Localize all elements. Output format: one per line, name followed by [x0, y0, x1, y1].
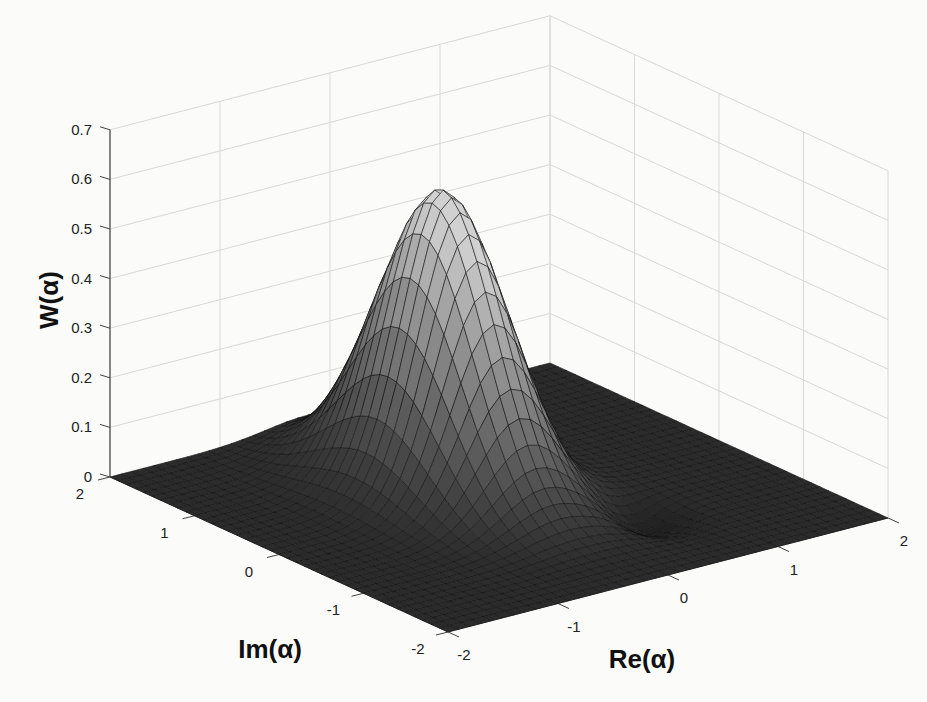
x-tick-label: 2: [900, 532, 908, 549]
wigner-surface: [110, 190, 888, 632]
x-axis-label: Re(α): [609, 644, 676, 674]
y-tick-label: -2: [411, 640, 424, 657]
x-tick-label: 0: [680, 589, 688, 606]
x-tick-label: -2: [457, 646, 470, 663]
y-tick-label: 1: [160, 524, 168, 541]
y-tick-label: 0: [245, 563, 253, 580]
x-tick-label: 1: [790, 561, 798, 578]
z-tick-label: 0: [84, 468, 92, 485]
z-tick-label: 0.3: [71, 319, 92, 336]
y-tick-label: -1: [327, 601, 340, 618]
z-tick-label: 0.1: [71, 418, 92, 435]
y-tick-label: 2: [76, 485, 84, 502]
z-tick-label: 0.5: [71, 220, 92, 237]
x-tick-label: -1: [567, 618, 580, 635]
z-tick-label: 0.2: [71, 369, 92, 386]
z-axis-label: W(α): [34, 271, 64, 329]
y-axis-label: Im(α): [238, 634, 302, 664]
surface-plot: 00.10.20.30.40.50.60.7-2-1012-2-1012 W(α…: [0, 0, 927, 702]
z-tick-label: 0.4: [71, 270, 92, 287]
z-tick-label: 0.6: [71, 170, 92, 187]
z-tick-label: 0.7: [71, 121, 92, 138]
